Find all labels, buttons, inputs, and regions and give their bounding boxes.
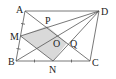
label-A: A: [16, 4, 24, 15]
label-P: P: [45, 15, 51, 26]
label-B: B: [8, 56, 15, 67]
label-O: O: [53, 38, 60, 49]
geometry-diagram: A D B C M N P O Q: [0, 0, 116, 79]
label-D: D: [101, 6, 108, 17]
label-M: M: [10, 31, 19, 42]
label-Q: Q: [70, 38, 78, 49]
label-C: C: [92, 57, 99, 68]
segment-DC: [90, 11, 99, 61]
label-N: N: [49, 64, 56, 75]
